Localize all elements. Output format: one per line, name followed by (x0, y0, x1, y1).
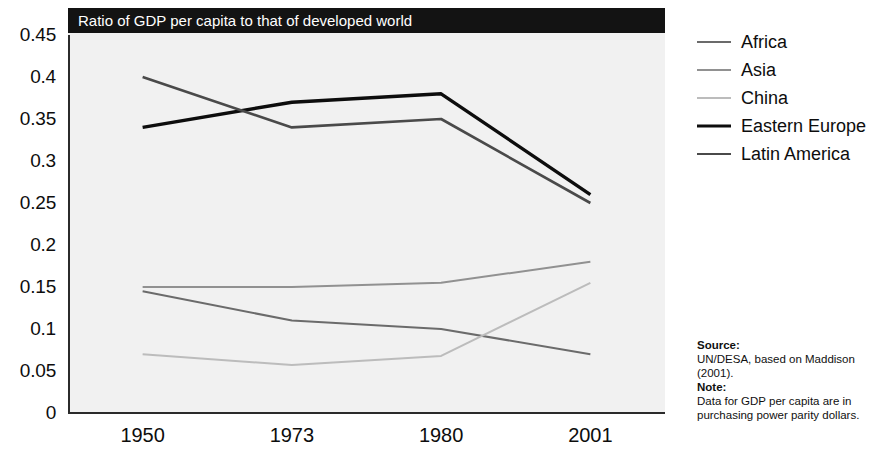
legend-item[interactable]: Eastern Europe (697, 112, 867, 140)
x-tick-label: 1980 (386, 423, 496, 447)
plot-canvas (68, 8, 665, 414)
source-heading: Source: (697, 338, 869, 352)
legend-item-label: Asia (741, 60, 776, 80)
legend-item[interactable]: Latin America (697, 140, 867, 168)
legend-line-icon (697, 120, 731, 132)
chart-figure: 00.050.10.150.20.250.30.350.40.45 Ratio … (0, 0, 870, 452)
x-tick-label: 2001 (535, 423, 645, 447)
legend-item-label: China (741, 88, 788, 108)
note-heading: Note: (697, 380, 869, 394)
legend-item[interactable]: Africa (697, 28, 867, 56)
legend-line-icon (697, 64, 731, 76)
y-tick-label: 0.15 (0, 277, 56, 296)
legend-item-label: Africa (741, 32, 787, 52)
x-tick-label: 1973 (237, 423, 347, 447)
chart-legend: AfricaAsiaChinaEastern EuropeLatin Ameri… (697, 28, 867, 168)
y-tick-label: 0.25 (0, 193, 56, 212)
y-tick-label: 0.35 (0, 109, 56, 128)
note-text: Data for GDP per capita are in purchasin… (697, 394, 869, 422)
y-tick-label: 0.2 (0, 235, 56, 254)
y-tick-label: 0.45 (0, 25, 56, 44)
y-tick-label: 0.1 (0, 319, 56, 338)
y-tick-label: 0.05 (0, 361, 56, 380)
series-line (143, 291, 591, 354)
y-tick-label: 0.3 (0, 151, 56, 170)
chart-title-bar: Ratio of GDP per capita to that of devel… (68, 8, 665, 33)
source-text: UN/DESA, based on Maddison (2001). (697, 352, 869, 380)
series-line (143, 262, 591, 287)
x-axis-tick-labels: 1950197319802001 (0, 423, 680, 452)
axis-lines (68, 35, 665, 414)
series-lines (143, 77, 591, 365)
legend-item[interactable]: China (697, 84, 867, 112)
y-tick-label: 0.4 (0, 67, 56, 86)
legend-item-label: Latin America (741, 144, 850, 164)
y-tick-label: 0 (0, 403, 56, 422)
legend-item-label: Eastern Europe (741, 116, 866, 136)
x-tick-label: 1950 (88, 423, 198, 447)
series-line (143, 77, 591, 203)
legend-line-icon (697, 92, 731, 104)
legend-line-icon (697, 148, 731, 160)
legend-item[interactable]: Asia (697, 56, 867, 84)
chart-title: Ratio of GDP per capita to that of devel… (68, 8, 665, 30)
plot-area: Ratio of GDP per capita to that of devel… (68, 8, 665, 414)
legend-line-icon (697, 36, 731, 48)
source-note-block: Source: UN/DESA, based on Maddison (2001… (697, 338, 869, 422)
series-line (143, 94, 591, 195)
y-axis-tick-labels: 00.050.10.150.20.250.30.350.40.45 (0, 0, 56, 452)
